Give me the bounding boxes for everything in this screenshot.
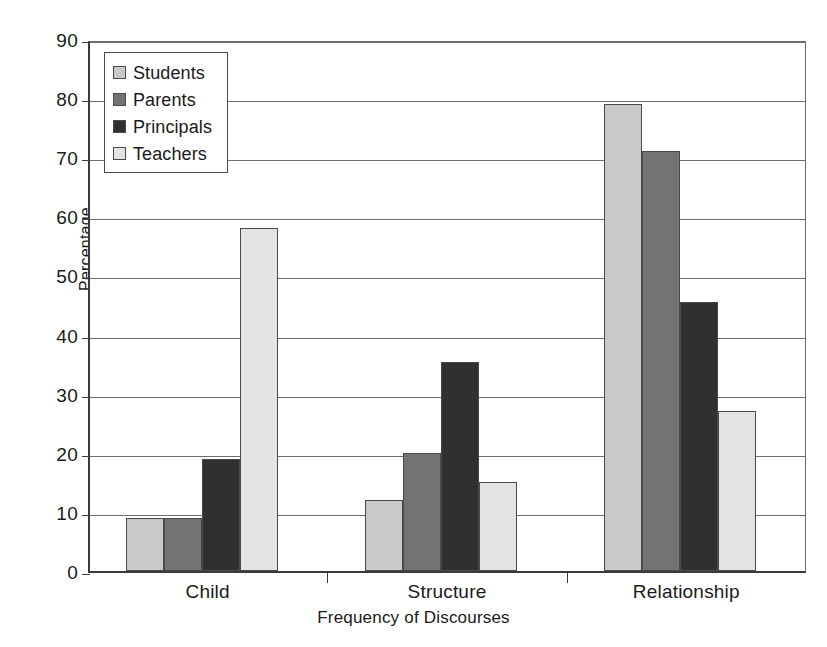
y-tick-mark <box>82 397 90 398</box>
y-tick-label: 50 <box>36 267 78 286</box>
y-axis-tick-labels: 0102030405060708090 <box>26 0 78 647</box>
y-tick-label: 90 <box>36 31 78 50</box>
y-tick-label: 40 <box>36 327 78 346</box>
y-tick-label: 30 <box>36 386 78 405</box>
bar-chart: Percentage 0102030405060708090 ChildStru… <box>0 0 827 647</box>
legend: StudentsParentsPrincipalsTeachers <box>104 52 228 173</box>
bar <box>126 518 164 571</box>
legend-item: Teachers <box>113 140 227 167</box>
y-tick-mark <box>82 338 90 339</box>
legend-swatch-icon <box>113 93 126 106</box>
y-tick-label: 80 <box>36 90 78 109</box>
y-tick-mark <box>82 278 90 279</box>
y-tick-mark <box>82 574 90 575</box>
bar <box>718 411 756 571</box>
y-tick-mark <box>82 515 90 516</box>
x-category-label: Child <box>88 581 327 603</box>
bar <box>479 482 517 571</box>
bar <box>642 151 680 571</box>
y-tick-mark <box>82 219 90 220</box>
y-tick-label: 10 <box>36 504 78 523</box>
y-tick-mark <box>82 42 90 43</box>
legend-item: Principals <box>113 113 227 140</box>
y-tick-mark <box>82 101 90 102</box>
legend-label: Parents <box>133 91 196 109</box>
legend-item: Students <box>113 59 227 86</box>
bar <box>365 500 403 571</box>
legend-label: Principals <box>133 118 212 136</box>
y-tick-label: 70 <box>36 149 78 168</box>
bar <box>403 453 441 571</box>
bar <box>240 228 278 571</box>
legend-label: Teachers <box>133 145 207 163</box>
y-tick-label: 20 <box>36 445 78 464</box>
bar <box>604 104 642 571</box>
x-category-label: Structure <box>327 581 566 603</box>
y-tick-label: 0 <box>36 563 78 582</box>
legend-swatch-icon <box>113 120 126 133</box>
bar <box>164 518 202 571</box>
legend-label: Students <box>133 64 205 82</box>
x-category-label: Relationship <box>567 581 806 603</box>
bar <box>441 362 479 571</box>
bar <box>680 302 718 571</box>
y-tick-mark <box>82 160 90 161</box>
legend-swatch-icon <box>113 147 126 160</box>
legend-item: Parents <box>113 86 227 113</box>
bar <box>202 459 240 571</box>
legend-swatch-icon <box>113 66 126 79</box>
x-axis-title: Frequency of Discourses <box>0 608 827 628</box>
y-tick-mark <box>82 456 90 457</box>
y-tick-label: 60 <box>36 208 78 227</box>
